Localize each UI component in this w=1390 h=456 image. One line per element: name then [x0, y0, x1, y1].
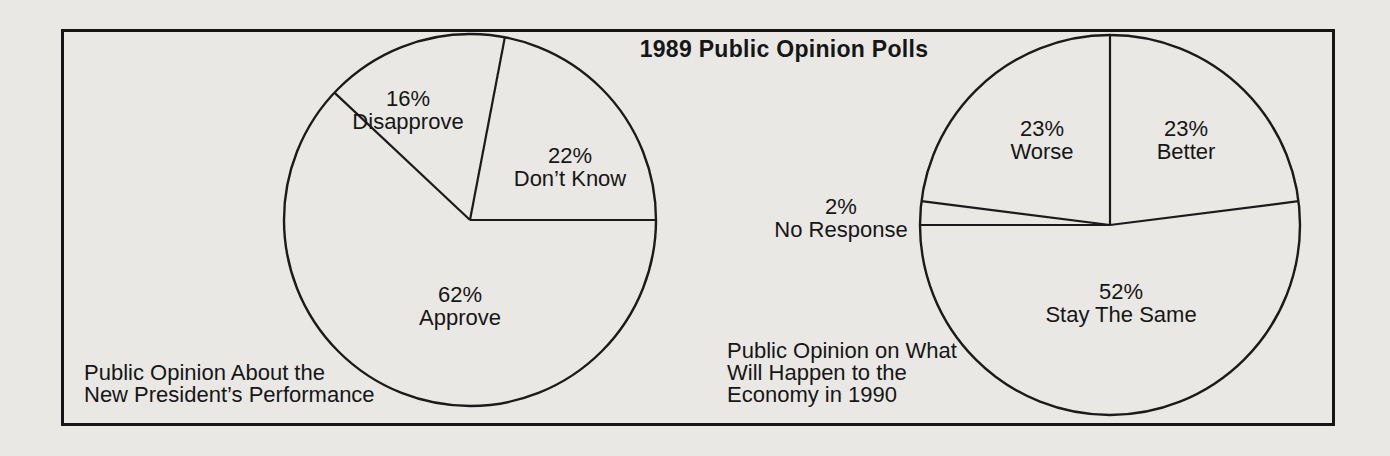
- slice-pct: 52%: [1045, 280, 1196, 303]
- slice-pct: 23%: [1157, 117, 1216, 140]
- slice-name: Stay The Same: [1045, 303, 1196, 326]
- slice-pct: 16%: [352, 87, 463, 110]
- caption-line: Economy in 1990: [727, 384, 957, 406]
- slice-divider: [1110, 201, 1299, 225]
- slice-divider: [921, 201, 1110, 225]
- right-pie-caption: Public Opinion on What Will Happen to th…: [727, 340, 957, 406]
- slice-label-better: 23% Better: [1157, 117, 1216, 163]
- slice-divider: [470, 37, 505, 220]
- caption-line: Public Opinion About the: [84, 362, 375, 384]
- slice-pct: 62%: [419, 283, 501, 306]
- slice-name: Don’t Know: [514, 167, 627, 190]
- economy-1990-pie: [920, 35, 1300, 415]
- figure-page: 1989 Public Opinion Polls 16% Disapprove…: [0, 0, 1390, 456]
- caption-line: Will Happen to the: [727, 362, 957, 384]
- slice-pct: 22%: [514, 144, 627, 167]
- slice-label-worse: 23% Worse: [1010, 117, 1073, 163]
- slice-label-disapprove: 16% Disapprove: [352, 87, 463, 133]
- caption-line: Public Opinion on What: [727, 340, 957, 362]
- slice-label-no-response: 2% No Response: [774, 195, 907, 241]
- left-pie-caption: Public Opinion About the New President’s…: [84, 362, 375, 406]
- slice-pct: 23%: [1010, 117, 1073, 140]
- slice-pct: 2%: [774, 195, 907, 218]
- slice-name: Approve: [419, 306, 501, 329]
- slice-name: Disapprove: [352, 110, 463, 133]
- slice-label-approve: 62% Approve: [419, 283, 501, 329]
- slice-name: Worse: [1010, 140, 1073, 163]
- president-performance-pie: [284, 34, 656, 406]
- slice-label-dont-know: 22% Don’t Know: [514, 144, 627, 190]
- slice-label-stay-the-same: 52% Stay The Same: [1045, 280, 1196, 326]
- chart-title: 1989 Public Opinion Polls: [640, 36, 929, 63]
- caption-line: New President’s Performance: [84, 384, 375, 406]
- slice-name: Better: [1157, 140, 1216, 163]
- slice-name: No Response: [774, 218, 907, 241]
